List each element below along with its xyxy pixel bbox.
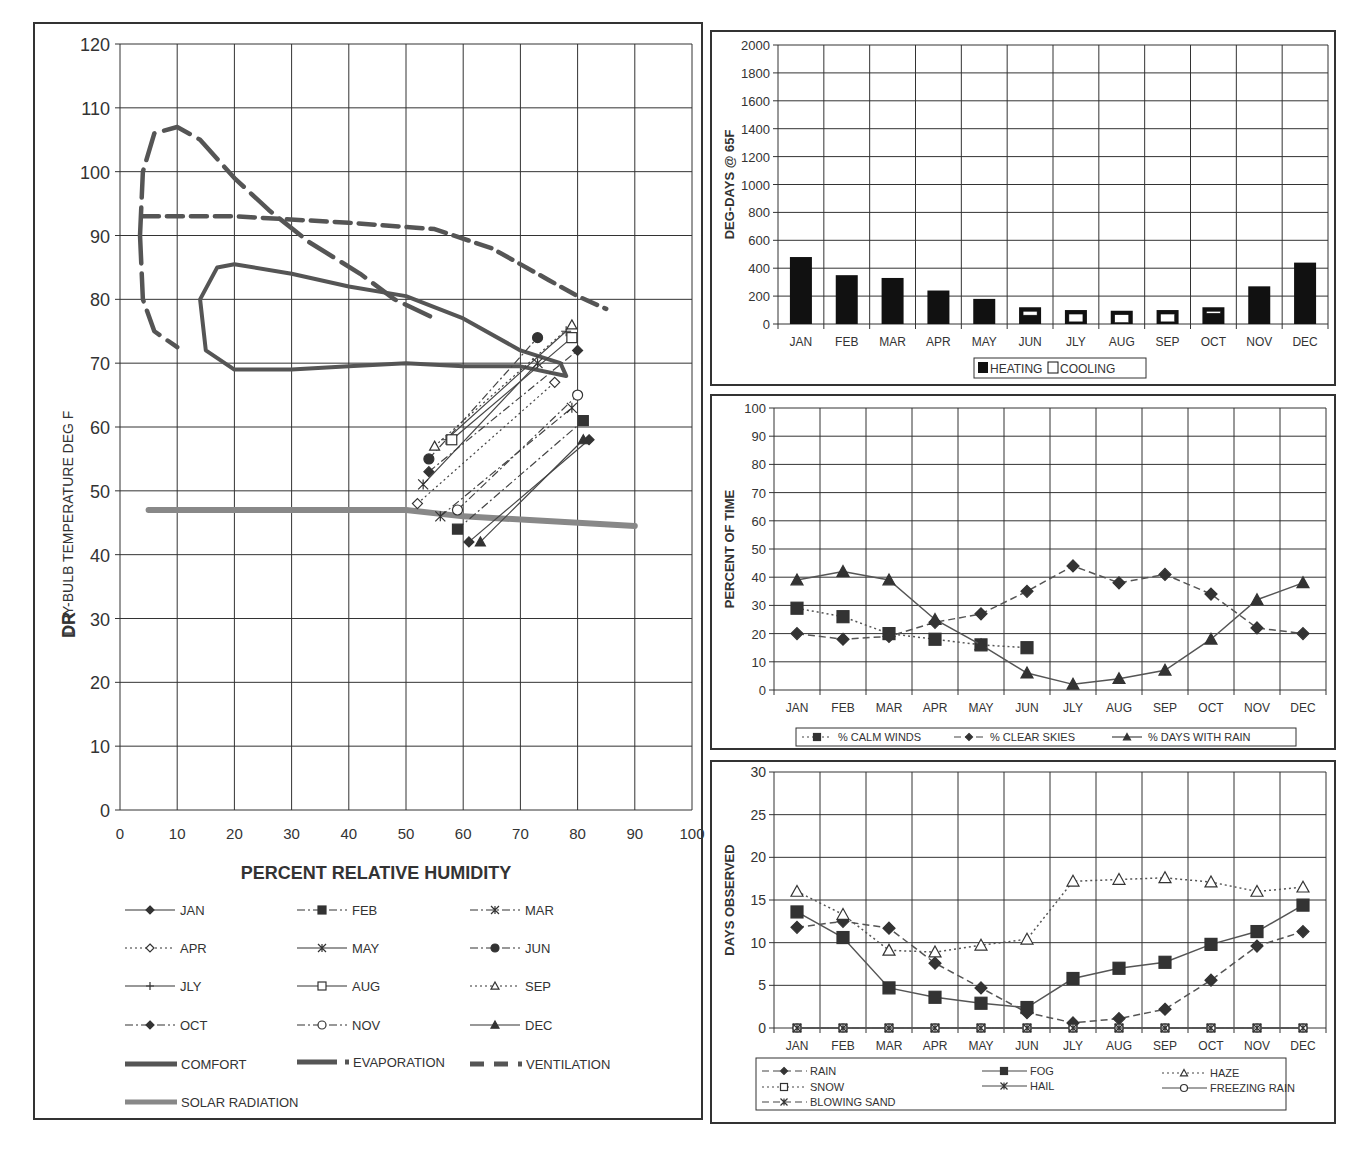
x-tick-label: OCT: [1198, 701, 1224, 715]
x-tick-label: JLY: [1063, 1039, 1083, 1053]
square-open-marker-icon: [567, 333, 577, 343]
x-tick-label: AUG: [1109, 335, 1135, 349]
triangle-open-marker-icon: [837, 909, 849, 920]
x-tick-label: DEC: [1292, 335, 1318, 349]
triangle-marker-icon: [837, 566, 849, 577]
square-marker-icon: [929, 991, 941, 1003]
comfort-zone: [200, 264, 566, 376]
y-axis-title: DRY-BULB TEMPERATURE DEG F: [60, 411, 76, 635]
x-tick-label: APR: [923, 1039, 948, 1053]
y-axis-title: DAYS OBSERVED: [722, 844, 737, 955]
y-tick-label: 30: [750, 764, 766, 780]
x-tick-label: JLY: [1063, 701, 1083, 715]
x-tick-label: JLY: [1066, 335, 1086, 349]
diamond-marker-icon: [1251, 622, 1263, 634]
legend-label: OCT: [180, 1018, 208, 1033]
y-axis-title: DEG-DAYS @ 65F: [722, 130, 737, 240]
percent-time-legend: % CALM WINDS% CLEAR SKIES% DAYS WITH RAI…: [796, 728, 1296, 746]
cooling-bar: [1069, 314, 1083, 322]
triangle-open-marker-icon: [1159, 872, 1171, 883]
square-marker-icon: [1159, 956, 1171, 968]
degree-days-chart: 0200400600800100012001400160018002000JAN…: [712, 32, 1338, 388]
x-tick-label: 60: [455, 825, 472, 842]
diamond-marker-icon: [975, 608, 987, 620]
x-axis-title: PERCENT RELATIVE HUMIDITY: [241, 863, 512, 883]
legend-label: JAN: [180, 903, 205, 918]
ventilation-zone: [143, 216, 606, 309]
triangle-open-marker-icon: [883, 944, 895, 955]
triangle-marker-icon: [1159, 664, 1171, 675]
square-filled-marker-icon: [318, 906, 326, 914]
square-marker-icon: [791, 906, 803, 918]
y-tick-label: 200: [748, 289, 770, 304]
x-tick-label: 90: [626, 825, 643, 842]
diamond-marker-icon: [1113, 577, 1125, 589]
days-observed-chart: 051015202530JANFEBMARAPRMAYJUNJLYAUGSEPO…: [712, 762, 1338, 1126]
x-tick-label: SEP: [1153, 701, 1177, 715]
circle-open-marker-icon: [318, 1021, 326, 1029]
y-tick-label: 60: [752, 514, 766, 529]
star-marker-icon: [567, 403, 577, 413]
heating-bar: [927, 291, 949, 324]
x-tick-label: JAN: [786, 701, 809, 715]
triangle-open-marker-icon: [1021, 933, 1033, 944]
triangle-open-marker-icon: [1113, 874, 1125, 885]
diamond-marker-icon: [883, 922, 895, 934]
y-tick-label: 120: [80, 35, 110, 55]
y-tick-label: 30: [752, 598, 766, 613]
y-tick-label: 20: [750, 849, 766, 865]
bioclimatic-chart: 0102030405060708090100010203040506070809…: [35, 24, 705, 1122]
square-marker-icon: [1001, 1068, 1008, 1075]
heating-bar: [1202, 307, 1224, 324]
square-filled-marker-icon: [452, 524, 462, 534]
legend-label: JUN: [525, 941, 550, 956]
x-tick-label: JAN: [790, 335, 813, 349]
x-tick-label: DEC: [1290, 701, 1316, 715]
square-open-marker-icon: [318, 982, 326, 990]
y-tick-label: 15: [750, 892, 766, 908]
x-tick-label: MAR: [879, 335, 906, 349]
x-tick-label: APR: [923, 701, 948, 715]
legend-label: HAIL: [1030, 1080, 1054, 1092]
y-tick-label: 70: [90, 354, 110, 374]
y-tick-label: 25: [750, 807, 766, 823]
y-tick-label: 90: [90, 227, 110, 247]
x-tick-label: SEP: [1156, 335, 1180, 349]
x-tick-label: NOV: [1244, 701, 1270, 715]
diamond-marker-icon: [1297, 926, 1309, 938]
square-marker-icon: [1113, 962, 1125, 974]
x-tick-label: 20: [226, 825, 243, 842]
x-tick-label: 80: [569, 825, 586, 842]
diamond-marker-icon: [975, 982, 987, 994]
circle-filled-marker-icon: [424, 454, 434, 464]
y-tick-label: 1200: [741, 150, 770, 165]
bioclimatic-legend: JANFEBMARAPRMAYJUNJLYAUGSEPOCTNOVDECCOMF…: [125, 903, 610, 1110]
square-marker-icon: [837, 932, 849, 944]
circle-filled-marker-icon: [533, 333, 543, 343]
triangle-marker-icon: [1297, 577, 1309, 588]
y-tick-label: 40: [90, 546, 110, 566]
diamond-filled-marker-icon: [146, 1021, 154, 1029]
diamond-marker-icon: [1159, 1003, 1171, 1015]
triangle-open-marker-icon: [1297, 881, 1309, 892]
percent-of-time-chart: 0102030405060708090100JANFEBMARAPRMAYJUN…: [712, 396, 1338, 752]
x-tick-label: MAY: [968, 701, 993, 715]
evaporation-zone: [140, 127, 435, 319]
triangle-open-marker-icon: [491, 982, 499, 989]
diamond-marker-icon: [1297, 628, 1309, 640]
x-tick-label: 0: [116, 825, 124, 842]
square-marker-icon: [791, 602, 803, 614]
cooling-bar: [1115, 315, 1129, 323]
y-tick-label: 0: [758, 1020, 766, 1036]
y-tick-label: 400: [748, 261, 770, 276]
y-tick-label: 600: [748, 233, 770, 248]
diamond-marker-icon: [1021, 585, 1033, 597]
y-tick-label: 40: [752, 570, 766, 585]
x-tick-label: APR: [926, 335, 951, 349]
square-marker-icon: [975, 997, 987, 1009]
x-tick-label: JUN: [1018, 335, 1041, 349]
square-marker-icon: [814, 734, 821, 741]
heating-bar: [1294, 263, 1316, 324]
star-marker-icon: [418, 479, 428, 489]
legend-label: % DAYS WITH RAIN: [1148, 731, 1251, 743]
